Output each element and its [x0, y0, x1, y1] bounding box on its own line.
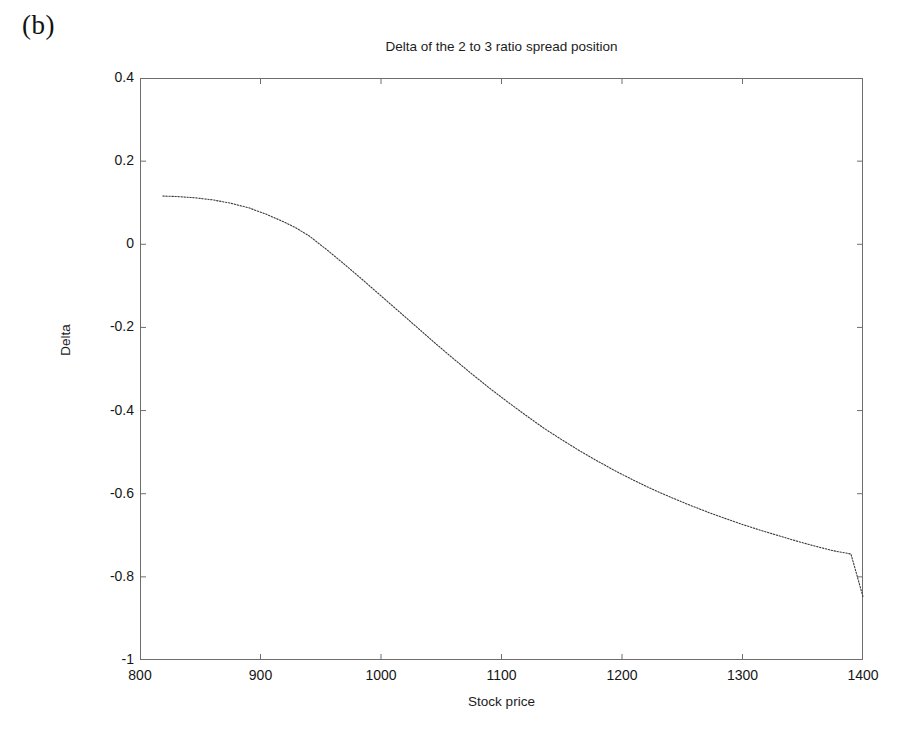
x-tick-label: 800	[100, 667, 180, 683]
y-tick-label: -0.2	[74, 318, 134, 334]
x-tick-label: 1400	[823, 667, 903, 683]
y-tick-label: 0.4	[74, 69, 134, 85]
y-axis-label: Delta	[58, 270, 73, 410]
y-tick-label: 0.2	[74, 152, 134, 168]
y-tick-label: -0.8	[74, 568, 134, 584]
y-tick-label: 0	[74, 235, 134, 251]
x-tick-label: 1000	[341, 667, 421, 683]
y-tick-label: -1	[74, 651, 134, 667]
panel-label: (b)	[22, 10, 55, 41]
y-tick-label: -0.4	[74, 402, 134, 418]
figure-container: (b) Delta of the 2 to 3 ratio spread pos…	[0, 0, 910, 732]
x-tick-label: 1200	[582, 667, 662, 683]
y-tick-label: -0.6	[74, 485, 134, 501]
y-axis-tick-labels: 0.40.20-0.2-0.4-0.6-0.8-1	[66, 0, 134, 732]
x-axis-label: Stock price	[140, 694, 863, 709]
x-tick-label: 1100	[462, 667, 542, 683]
chart-title: Delta of the 2 to 3 ratio spread positio…	[140, 39, 863, 54]
x-tick-label: 900	[221, 667, 301, 683]
plot-area	[140, 78, 863, 660]
x-tick-label: 1300	[703, 667, 783, 683]
x-axis-tick-labels: 80090010001100120013001400	[0, 667, 910, 691]
